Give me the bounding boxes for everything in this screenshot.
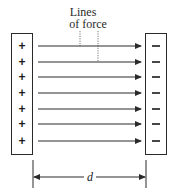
plus-sign: + (18, 134, 25, 148)
plus-sign: + (18, 55, 25, 69)
plus-sign: + (18, 39, 25, 53)
field-lines (38, 46, 141, 141)
plus-sign: + (18, 117, 25, 131)
negative-plate (146, 34, 167, 155)
parallel-plate-diagram: Lines of force + + + + + + + (0, 0, 177, 193)
positive-plate: + + + + + + + (12, 34, 33, 155)
plus-sign: + (18, 102, 25, 116)
distance-dimension: d (33, 160, 146, 188)
plus-sign: + (18, 86, 25, 100)
lines-of-force-label-line2: of force (69, 17, 107, 31)
plus-sign: + (18, 70, 25, 84)
distance-label: d (87, 170, 94, 184)
